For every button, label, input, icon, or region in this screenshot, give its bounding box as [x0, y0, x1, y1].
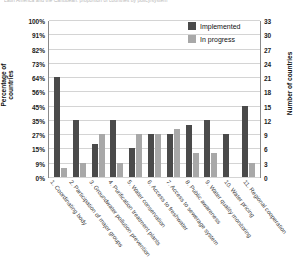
bar-group[interactable]: [110, 21, 123, 177]
y-axis-tick-label: 9%: [36, 160, 45, 167]
legend-item[interactable]: Implemented: [188, 22, 262, 30]
bar-implemented[interactable]: [204, 120, 210, 177]
y2-axis-tick-labels: 03691215182124273033: [264, 21, 282, 178]
y2-axis-tick-label: 3: [264, 160, 268, 167]
y-axis-tick-label: 0%: [36, 175, 45, 182]
y2-axis-tick-label: 33: [264, 18, 271, 25]
bar-implemented[interactable]: [129, 148, 135, 177]
bar-group[interactable]: [54, 21, 67, 177]
gridline: [49, 177, 260, 178]
legend-label: Implemented: [200, 23, 240, 30]
y-axis-tick-label: 15%: [32, 146, 45, 153]
x-axis-tick-labels: 1. Coordinating body2. Participation of …: [48, 179, 261, 257]
y2-axis-tick-label: 18: [264, 89, 271, 96]
bar-in-progress[interactable]: [211, 153, 217, 177]
y-axis-tick-label: 27%: [32, 132, 45, 139]
bar-in-progress[interactable]: [174, 129, 180, 177]
bar-in-progress[interactable]: [136, 134, 142, 177]
y-axis-tick-label: 35%: [32, 117, 45, 124]
legend-swatch: [188, 35, 196, 43]
legend-label: In progress: [200, 36, 235, 43]
bar-in-progress[interactable]: [155, 134, 161, 177]
bar-in-progress[interactable]: [80, 163, 86, 177]
bar-implemented[interactable]: [186, 125, 192, 177]
bar-group[interactable]: [129, 21, 142, 177]
chart-legend: ImplementedIn progress: [188, 22, 262, 48]
y-axis-tick-label: 73%: [32, 60, 45, 67]
bar-implemented[interactable]: [54, 77, 60, 177]
y-axis-tick-labels: 0%9%15%27%35%45%56%64%73%82%91%100%: [0, 21, 45, 178]
y-axis-tick-label: 100%: [28, 18, 45, 25]
legend-swatch: [188, 22, 196, 30]
y-axis-tick-label: 82%: [32, 46, 45, 53]
y-axis-tick-label: 91%: [32, 32, 45, 39]
y2-axis-tick-label: 24: [264, 60, 271, 67]
bar-implemented[interactable]: [148, 134, 154, 177]
y2-axis-tick-label: 6: [264, 146, 268, 153]
bar-group[interactable]: [92, 21, 105, 177]
bar-in-progress[interactable]: [61, 168, 67, 178]
bar-implemented[interactable]: [242, 106, 248, 177]
bar-in-progress[interactable]: [99, 134, 105, 177]
y2-axis-tick-label: 21: [264, 75, 271, 82]
y-axis-tick-label: 64%: [32, 75, 45, 82]
y2-axis-tick-label: 15: [264, 103, 271, 110]
bar-implemented[interactable]: [73, 120, 79, 177]
y2-axis-tick-label: 9: [264, 132, 268, 139]
y2-axis-tick-label: 0: [264, 175, 268, 182]
y2-axis-tick-label: 12: [264, 117, 271, 124]
y-axis-tick-label: 56%: [32, 89, 45, 96]
bar-group[interactable]: [148, 21, 161, 177]
bar-group[interactable]: [73, 21, 86, 177]
bar-in-progress[interactable]: [249, 163, 255, 177]
x-axis-tick-label: 8. Public awareness: [184, 179, 223, 226]
bar-implemented[interactable]: [223, 134, 229, 177]
bar-implemented[interactable]: [110, 120, 116, 177]
figure-caption: Latin America and the Caribbean: proport…: [4, 0, 300, 4]
y-axis-tick-label: 45%: [32, 103, 45, 110]
y2-axis-tick-label: 30: [264, 32, 271, 39]
legend-item[interactable]: In progress: [188, 35, 262, 43]
y2-axis-tick-label: 27: [264, 46, 271, 53]
bar-group[interactable]: [167, 21, 180, 177]
chart-figure: Latin America and the Caribbean: proport…: [0, 0, 303, 257]
bar-implemented[interactable]: [92, 144, 98, 177]
bar-implemented[interactable]: [167, 134, 173, 177]
y2-axis-title: Number of countries: [286, 47, 293, 121]
bar-in-progress[interactable]: [117, 163, 123, 177]
bar-in-progress[interactable]: [193, 153, 199, 177]
